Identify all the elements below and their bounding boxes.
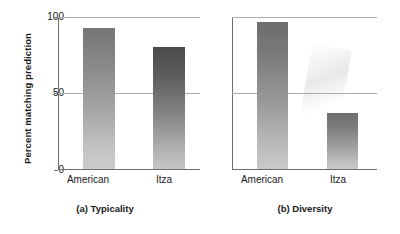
bar-typicality-american (83, 28, 115, 169)
x-tick-label-american: American (53, 174, 123, 185)
y-tick-mark-0 (54, 170, 58, 171)
bar-diversity-itza (327, 113, 358, 169)
gridline-100 (232, 17, 377, 18)
x-axis-line (58, 169, 200, 170)
scan-artifact (300, 44, 352, 120)
panel-diversity: American Itza (b) Diversity (210, 0, 400, 234)
gridline-100 (58, 17, 200, 18)
gridline-50 (232, 93, 377, 94)
panel-caption-diversity: (b) Diversity (210, 203, 400, 214)
x-tick-label-american: American (227, 174, 297, 185)
plot-area-diversity (232, 17, 377, 170)
panel-caption-typicality: (a) Typicality (0, 203, 210, 214)
bar-typicality-itza (153, 47, 185, 169)
x-axis-line (232, 169, 377, 170)
bar-diversity-american (257, 22, 288, 169)
x-tick-label-itza: Itza (308, 174, 368, 185)
x-tick-label-itza: Itza (134, 174, 194, 185)
figure: Percent matching prediction 100 50 0 Ame… (0, 0, 400, 234)
y-axis-title: Percent matching prediction (22, 19, 33, 179)
panel-typicality: Percent matching prediction 100 50 0 Ame… (0, 0, 210, 234)
plot-area-typicality (58, 17, 200, 170)
